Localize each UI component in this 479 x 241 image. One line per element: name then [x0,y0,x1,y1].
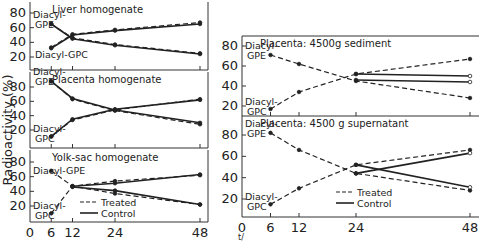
y-tick-label: 40 [221,78,238,93]
y-tick-label: 20 [9,198,26,213]
data-point [71,184,75,188]
data-point [269,107,273,111]
data-point [468,80,472,84]
x-tick-label: 0 [26,225,34,240]
panel-5: 2040608006122448Placenta: 4500 g superna… [221,116,479,235]
y-tick-label: 80 [9,154,26,169]
x-tick-label: 24 [348,220,365,235]
legend-control: Control [101,208,135,219]
gpe-label: Diacyl-GPE [33,165,85,176]
y-tick-label: 20 [9,49,26,64]
x-axis-label-fragment: t/ [238,233,244,241]
y-tick-label: 80 [9,5,26,20]
data-point [354,163,358,167]
data-point [198,98,202,102]
data-point [297,187,301,191]
panel-title: Placenta homogenate [52,74,162,85]
data-point [113,189,117,193]
x-tick-label: 12 [291,220,308,235]
data-point [468,151,472,155]
y-tick-label: 60 [221,58,238,73]
data-point [269,203,273,207]
y-tick-label: 60 [221,148,238,163]
x-tick-label: 6 [47,225,55,240]
y-tick-label: 60 [9,20,26,35]
y-tick-label: 20 [9,122,26,137]
diacyl-gpc-control-line [73,174,201,186]
panel-title: Placenta: 4500g sediment [260,38,391,49]
panel-title: Yolk-sac homogenate [51,152,158,163]
diacyl-gpc-control-line [356,153,470,173]
y-tick-label: 60 [9,93,26,108]
data-point [198,52,202,56]
data-point [49,79,53,83]
figure: Radioactivity (%)20406080Liver homogenat… [0,0,479,241]
gpc-label: Diacyl-GPC [35,49,88,60]
y-tick-label: 80 [221,127,238,142]
x-tick-label: 24 [107,225,124,240]
x-tick-label: 48 [462,220,479,235]
y-tick-label: 40 [9,34,26,49]
data-point [49,46,53,50]
svg-text:GPC: GPC [247,106,267,117]
data-point [269,53,273,57]
panel-title: Placenta: 4500 g supernatant [260,118,409,129]
legend-treated: Treated [100,197,136,208]
data-point [113,181,117,185]
data-point [113,43,117,47]
x-tick-label: 48 [192,225,209,240]
data-point [71,117,75,121]
legend-treated: Treated [356,187,392,198]
data-point [71,37,75,41]
y-tick-label: 60 [9,169,26,184]
data-point [198,22,202,26]
svg-text:GPE: GPE [247,128,266,139]
y-tick-label: 40 [9,183,26,198]
data-point [49,212,53,216]
diacyl-gpe-control-line [356,74,470,76]
data-point [49,169,53,173]
diacyl-gpc-treated-line [271,59,471,109]
svg-text:GPC: GPC [247,201,267,212]
data-point [71,97,75,101]
data-point [49,22,53,26]
data-point [49,135,53,139]
data-point [354,78,358,82]
legend-control: Control [357,198,391,209]
legend-right: TreatedControl [336,187,392,209]
data-point [113,107,117,111]
data-point [468,57,472,61]
data-point [269,131,273,135]
x-tick-label: 12 [64,225,81,240]
y-tick-label: 20 [221,191,238,206]
panel-1: 20406080Liver homogenateDiacyl-GPEDiacyl… [9,2,208,70]
data-point [354,72,358,76]
svg-text:GPE: GPE [247,50,266,61]
y-tick-label: 40 [9,108,26,123]
data-point [354,172,358,176]
data-point [297,148,301,152]
data-point [198,173,202,177]
data-point [297,90,301,94]
y-tick-label: 80 [9,79,26,94]
legend-left: TreatedControl [80,197,136,219]
data-point [468,74,472,78]
diacyl-gpc-control-line [356,80,470,82]
data-point [468,96,472,100]
data-point [297,62,301,66]
panel-3: 2040608006122448Yolk-sac homogenateDiacy… [9,150,208,240]
y-tick-label: 20 [221,98,238,113]
data-point [198,203,202,207]
data-point [71,33,75,37]
data-point [113,29,117,33]
data-point [468,185,472,189]
y-tick-label: 40 [221,170,238,185]
x-tick-label: 6 [266,220,274,235]
data-point [198,121,202,125]
panel-2: 20406080Placenta homogenateDiacyl-GPEDia… [9,66,208,148]
y-tick-label: 80 [221,38,238,53]
panel-4: 20406080Placenta: 4500g sedimentDiacyl-G… [221,36,479,117]
